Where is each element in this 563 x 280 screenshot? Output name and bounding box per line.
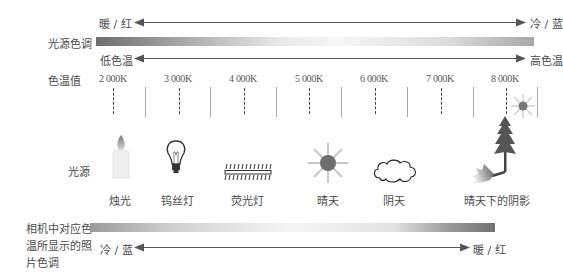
- bottom-double-arrow-line: [139, 247, 465, 248]
- tick-solid: [276, 87, 277, 117]
- fluorescent-lamp-label: 荧光灯: [231, 192, 264, 208]
- tick-dashed-8000k: [506, 88, 507, 114]
- bottom-cool-blue-label: 冷 / 蓝: [100, 241, 133, 257]
- light-tone-gradient-bar: [96, 37, 534, 46]
- photo-tone-gradient-bar: [90, 223, 495, 232]
- camera-tone-label-line1: 相机中对应色: [26, 220, 92, 236]
- tick-label-4000k: 4 000K: [229, 73, 257, 84]
- temp-arrow-line: [139, 58, 522, 59]
- tick-label-5000k: 5 000K: [295, 73, 323, 84]
- tick-solid: [537, 87, 538, 117]
- arrow-left-icon: [134, 18, 144, 27]
- tick-solid: [407, 87, 408, 117]
- sunny-label: 晴天: [317, 192, 339, 208]
- light-source-tone-label: 光源色调: [48, 35, 92, 51]
- cloudy-label: 阴天: [383, 192, 405, 208]
- tick-dashed-3000k: [179, 88, 180, 114]
- light-source-label: 光源: [68, 163, 90, 179]
- camera-tone-label-line2: 温所显示的照: [26, 237, 92, 253]
- light-bulb-icon: [165, 140, 187, 176]
- tick-label-3000k: 3 000K: [164, 73, 192, 84]
- tick-label-6000k: 6 000K: [360, 73, 388, 84]
- candle-label: 烛光: [109, 192, 131, 208]
- tree-shadow-icon: [470, 116, 520, 186]
- fluorescent-tube-icon: [224, 164, 272, 180]
- tick-label-7000k: 7 000K: [426, 73, 454, 84]
- tungsten-lamp-label: 钨丝灯: [161, 192, 194, 208]
- temperature-value-label: 色温值: [48, 72, 81, 88]
- tick-solid: [341, 87, 342, 117]
- arrow-left-icon: [134, 54, 144, 63]
- tick-dashed-4000k: [244, 88, 245, 114]
- sun-icon: [306, 141, 350, 185]
- shade-label: 晴天下的阴影: [464, 192, 530, 208]
- tick-solid: [145, 87, 146, 117]
- tick-dashed-7000k: [441, 88, 442, 114]
- tick-dashed-2000k: [113, 88, 114, 114]
- camera-tone-label-line3: 片色调: [26, 254, 59, 270]
- arrow-left-icon: [134, 243, 144, 252]
- cloud-icon: [372, 158, 418, 184]
- candle-icon: [110, 134, 132, 179]
- arrow-right-icon: [460, 243, 470, 252]
- tick-solid: [210, 87, 211, 117]
- tick-dashed-6000k: [375, 88, 376, 114]
- double-arrow-line: [138, 22, 522, 23]
- tick-label-8000k: 8 000K: [491, 73, 519, 84]
- high-temp-label: 高色温: [530, 52, 563, 68]
- cool-blue-label: 冷 / 蓝: [530, 15, 563, 31]
- low-temp-label: 低色温: [100, 52, 133, 68]
- tick-solid: [473, 87, 474, 117]
- arrow-right-icon: [516, 18, 526, 27]
- bottom-warm-red-label: 暖 / 红: [473, 241, 506, 257]
- tick-label-2000k: 2 000K: [99, 73, 127, 84]
- arrow-right-icon: [516, 54, 526, 63]
- tick-dashed-5000k: [309, 88, 310, 114]
- warm-red-label: 暖 / 红: [99, 15, 132, 31]
